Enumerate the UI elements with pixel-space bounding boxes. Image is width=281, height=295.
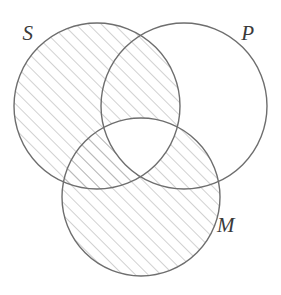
shaded-region-m [62, 118, 220, 276]
venn-diagram-figure: S P M [0, 0, 281, 295]
venn-diagram-canvas: S P M [0, 0, 281, 295]
circle-label-p: P [240, 21, 254, 45]
circle-label-m: M [216, 213, 236, 237]
shaded-region-group [14, 23, 220, 276]
circle-label-s: S [23, 21, 34, 45]
